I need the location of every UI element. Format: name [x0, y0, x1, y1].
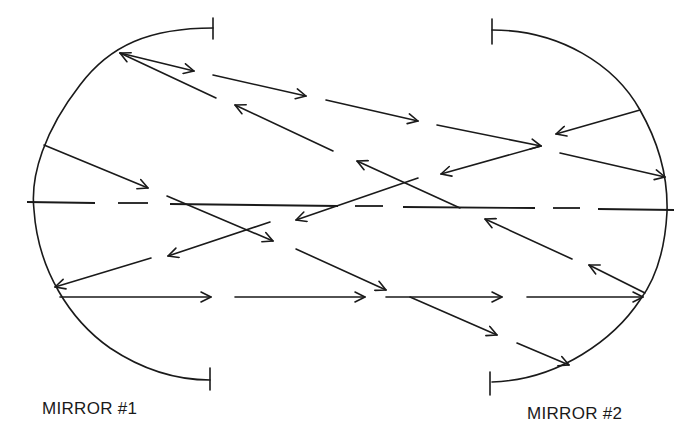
mirror-1-label: MIRROR #1: [42, 399, 137, 419]
mirror-2-label: MIRROR #2: [527, 404, 622, 424]
rays: [44, 53, 665, 365]
optical-axis: [27, 202, 674, 210]
mirror-ray-diagram: MIRROR #1 MIRROR #2: [0, 0, 686, 439]
